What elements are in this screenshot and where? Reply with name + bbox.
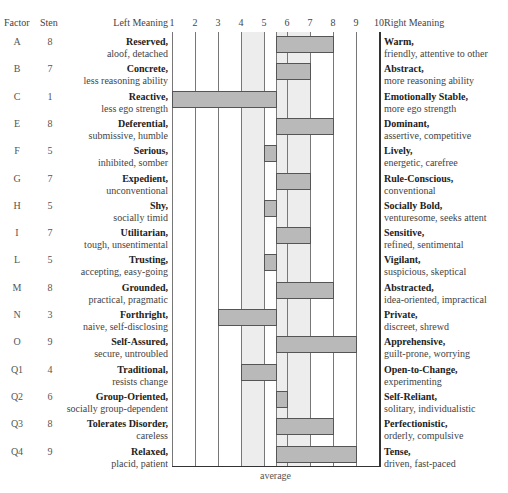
right-meaning: Private,discreet, shrewd (384, 309, 449, 333)
score-bar (276, 36, 335, 53)
right-meaning: Self-Reliant,solitary, individualistic (384, 391, 476, 415)
right-meaning-title: Vigilant, (384, 254, 466, 266)
left-meaning-desc: socially timid (113, 212, 168, 224)
left-meaning-title: Tolerates Disorder, (87, 418, 168, 430)
right-meaning-title: Rule-Conscious, (384, 173, 453, 185)
grid-line (333, 32, 334, 466)
right-meaning-desc: assertive, competitive (384, 130, 471, 142)
left-meaning-desc: accepting, easy-going (81, 266, 168, 278)
left-meaning-desc: resists change (112, 376, 168, 388)
factor-code: G (4, 173, 30, 184)
score-bar (172, 91, 277, 108)
right-meaning-desc: suspicious, skeptical (384, 266, 466, 278)
score-bar (276, 63, 312, 80)
left-meaning-title: Expedient, (106, 173, 168, 185)
left-meaning-title: Serious, (98, 145, 168, 157)
right-meaning-desc: friendly, attentive to other (384, 48, 488, 60)
left-meaning-desc: tough, unsentimental (84, 239, 168, 251)
left-meaning: Trusting,accepting, easy-going (81, 254, 168, 278)
right-meaning: Dominant,assertive, competitive (384, 118, 471, 142)
right-meaning-header: Right Meaning (384, 17, 444, 28)
right-meaning: Abstracted,idea-oriented, impractical (384, 282, 487, 306)
right-meaning-title: Lively, (384, 145, 458, 157)
right-meaning-title: Sensitive, (384, 227, 463, 239)
left-meaning-title: Reactive, (101, 91, 168, 103)
right-meaning: Open-to-Change,experimenting (384, 364, 458, 388)
right-meaning: Socially Bold,venturesome, seeks attent (384, 200, 486, 224)
right-meaning: Perfectionistic,orderly, compulsive (384, 418, 463, 442)
factor-code: Q1 (4, 364, 30, 375)
right-meaning: Vigilant,suspicious, skeptical (384, 254, 466, 278)
score-bar (276, 336, 358, 353)
right-meaning-desc: energetic, carefree (384, 157, 458, 169)
sten-score: 5 (40, 145, 60, 156)
sten-score: 5 (40, 254, 60, 265)
left-meaning: Relaxed,placid, patient (111, 446, 168, 470)
right-meaning: Sensitive,refined, sentimental (384, 227, 463, 251)
right-meaning-title: Private, (384, 309, 449, 321)
grid-line (310, 32, 311, 466)
left-meaning: Concrete,less reasoning ability (84, 63, 168, 87)
left-meaning: Deferential,submissive, humble (89, 118, 168, 142)
score-bar (276, 282, 335, 299)
left-meaning-desc: less reasoning ability (84, 75, 168, 87)
x-tick-label: 10 (374, 17, 384, 28)
left-meaning: Shy,socially timid (113, 200, 168, 224)
score-bar (264, 145, 277, 162)
right-meaning-title: Tense, (384, 446, 456, 458)
average-label: average (260, 470, 291, 481)
left-meaning-desc: secure, untroubled (94, 348, 168, 360)
left-meaning-desc: submissive, humble (89, 130, 168, 142)
right-meaning: Tense,driven, fast-paced (384, 446, 456, 470)
factor-code: N (4, 309, 30, 320)
right-meaning-title: Apprehensive, (384, 336, 470, 348)
x-tick-label: 8 (331, 17, 336, 28)
factor-code: O (4, 336, 30, 347)
right-meaning-desc: idea-oriented, impractical (384, 294, 487, 306)
sten-score: 4 (40, 364, 60, 375)
sten-score: 1 (40, 91, 60, 102)
left-meaning-title: Forthright, (83, 309, 168, 321)
right-meaning-title: Dominant, (384, 118, 471, 130)
right-meaning-desc: experimenting (384, 376, 458, 388)
left-meaning-title: Deferential, (89, 118, 168, 130)
sten-score: 8 (40, 36, 60, 47)
left-meaning-desc: aloof, detached (107, 48, 168, 60)
left-meaning: Self-Assured,secure, untroubled (94, 336, 168, 360)
right-meaning-title: Self-Reliant, (384, 391, 476, 403)
x-tick-label: 4 (239, 17, 244, 28)
factor-code: C (4, 91, 30, 102)
sten-score: 6 (40, 391, 60, 402)
right-meaning-title: Abstracted, (384, 282, 487, 294)
right-meaning: Lively,energetic, carefree (384, 145, 458, 169)
right-meaning-title: Perfectionistic, (384, 418, 463, 430)
right-meaning-desc: venturesome, seeks attent (384, 212, 486, 224)
right-meaning-desc: driven, fast-paced (384, 458, 456, 470)
score-bar (276, 118, 335, 135)
left-meaning-desc: careless (87, 430, 168, 442)
factor-code: I (4, 227, 30, 238)
right-meaning-desc: solitary, individualistic (384, 403, 476, 415)
score-bar (218, 309, 277, 326)
left-meaning-desc: socially group-dependent (67, 403, 168, 415)
sten-score: 3 (40, 309, 60, 320)
left-meaning-title: Self-Assured, (94, 336, 168, 348)
sten-score: 7 (40, 227, 60, 238)
x-tick-label: 6 (285, 17, 290, 28)
right-meaning-title: Abstract, (384, 63, 474, 75)
x-tick-label: 9 (354, 17, 359, 28)
factor-code: Q4 (4, 446, 30, 457)
right-meaning-desc: orderly, compulsive (384, 430, 463, 442)
left-meaning-title: Utilitarian, (84, 227, 168, 239)
x-tick-label: 2 (193, 17, 198, 28)
grid-line (379, 32, 381, 466)
grid-line (356, 32, 357, 466)
factor-code: B (4, 63, 30, 74)
score-bar (276, 446, 358, 463)
left-meaning: Reactive,less ego strength (101, 91, 168, 115)
left-meaning-title: Traditional, (112, 364, 168, 376)
left-meaning-desc: inhibited, somber (98, 157, 168, 169)
x-tick-label: 1 (170, 17, 175, 28)
factor-code: L (4, 254, 30, 265)
left-meaning: Group-Oriented,socially group-dependent (67, 391, 168, 415)
